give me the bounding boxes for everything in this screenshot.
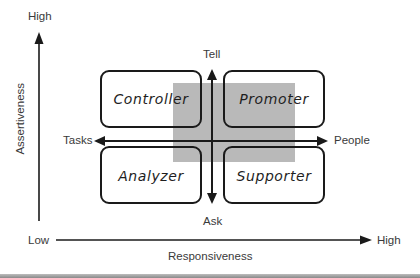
- quadrant-label-controller: Controller: [101, 92, 201, 106]
- people-label: People: [334, 135, 370, 147]
- assertiveness-axis-label: Assertiveness: [15, 81, 27, 157]
- tell-label: Tell: [203, 49, 220, 61]
- assertiveness-high-label: High: [28, 11, 52, 23]
- tasks-arrowhead-icon: [94, 136, 105, 146]
- tasks-label: Tasks: [63, 135, 92, 147]
- ask-label: Ask: [203, 216, 222, 228]
- tell-arrowhead-icon: [207, 69, 217, 80]
- quadrant-label-analyzer: Analyzer: [101, 169, 201, 183]
- behavior-style-diagram: Controller Promoter Analyzer Supporter T…: [0, 0, 420, 278]
- bottom-border: [0, 274, 420, 278]
- quadrant-label-supporter: Supporter: [224, 169, 324, 183]
- ask-arrowhead-icon: [207, 193, 217, 204]
- quadrant-label-promoter: Promoter: [224, 92, 324, 106]
- responsiveness-arrowhead-icon: [360, 236, 372, 245]
- responsiveness-axis-label: Responsiveness: [168, 251, 252, 263]
- responsiveness-low-label: Low: [28, 235, 49, 247]
- people-arrowhead-icon: [317, 136, 328, 146]
- responsiveness-high-label: High: [377, 235, 401, 247]
- assertiveness-arrowhead-icon: [35, 32, 44, 44]
